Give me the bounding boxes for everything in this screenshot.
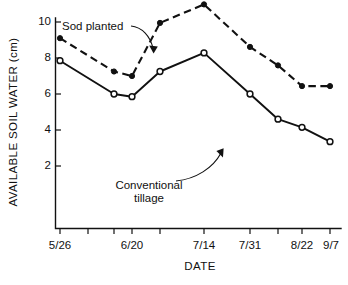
data-point bbox=[111, 91, 117, 97]
data-point bbox=[111, 69, 116, 74]
data-point bbox=[247, 91, 253, 97]
annotation-conventional-tillage-leader bbox=[176, 153, 221, 181]
data-point bbox=[201, 2, 206, 7]
annotation-sod-planted-leader bbox=[131, 26, 153, 48]
data-point bbox=[327, 84, 332, 89]
data-point bbox=[129, 94, 135, 100]
data-point bbox=[327, 139, 333, 145]
chart-canvas: 10 8 6 4 2 5/26 6/ bbox=[0, 0, 348, 285]
data-point bbox=[157, 20, 162, 25]
y-tick-label-8: 8 bbox=[45, 51, 51, 63]
y-tick-label-4: 4 bbox=[45, 123, 52, 135]
annotation-sod-planted-label: Sod planted bbox=[62, 20, 123, 32]
conventional-tillage-line bbox=[60, 53, 330, 142]
x-tick-label-0: 5/26 bbox=[49, 239, 71, 251]
x-tick-label-3: 7/31 bbox=[239, 239, 261, 251]
x-axis-title: DATE bbox=[184, 260, 215, 272]
annotation-conventional-tillage: Conventional tillage bbox=[115, 148, 223, 204]
x-tick-label-4: 8/22 bbox=[291, 239, 313, 251]
x-tick-label-5: 9/7 bbox=[323, 239, 339, 251]
axes-group: 10 8 6 4 2 5/26 6/ bbox=[38, 15, 341, 251]
annotation-conventional-tillage-label-line1: Conventional bbox=[115, 179, 182, 191]
data-point bbox=[247, 44, 252, 49]
y-tick-label-2: 2 bbox=[45, 159, 51, 171]
y-tick-label-6: 6 bbox=[45, 87, 51, 99]
y-axis-ticks bbox=[56, 22, 62, 166]
data-point bbox=[275, 116, 281, 122]
x-tick-label-1: 6/20 bbox=[121, 239, 143, 251]
y-axis-tick-labels: 10 8 6 4 2 bbox=[38, 15, 51, 171]
conventional-tillage-markers bbox=[57, 50, 333, 145]
annotation-conventional-tillage-label-line2: tillage bbox=[134, 192, 164, 204]
x-axis-ticks bbox=[60, 229, 330, 235]
annotation-sod-planted-arrowhead bbox=[149, 45, 158, 53]
annotation-conventional-tillage-arrowhead bbox=[216, 148, 223, 157]
data-point bbox=[299, 124, 305, 130]
y-tick-label-10: 10 bbox=[38, 15, 51, 27]
series-sod-planted bbox=[57, 2, 332, 89]
data-point bbox=[57, 58, 63, 64]
x-axis-tick-labels: 5/26 6/20 7/14 7/31 8/22 9/7 bbox=[49, 239, 339, 251]
data-point bbox=[201, 50, 207, 56]
data-point bbox=[157, 69, 163, 75]
data-point bbox=[129, 73, 134, 78]
data-point bbox=[275, 63, 280, 68]
sod-planted-line bbox=[60, 4, 330, 86]
x-tick-label-2: 7/14 bbox=[193, 239, 216, 251]
axis-lines bbox=[56, 18, 342, 229]
y-axis-title: AVAILABLE SOIL WATER (cm) bbox=[7, 38, 19, 207]
soil-water-chart-figure: 10 8 6 4 2 5/26 6/ bbox=[0, 0, 348, 285]
data-point bbox=[57, 36, 62, 41]
data-point bbox=[299, 84, 304, 89]
series-conventional-tillage bbox=[57, 50, 333, 145]
